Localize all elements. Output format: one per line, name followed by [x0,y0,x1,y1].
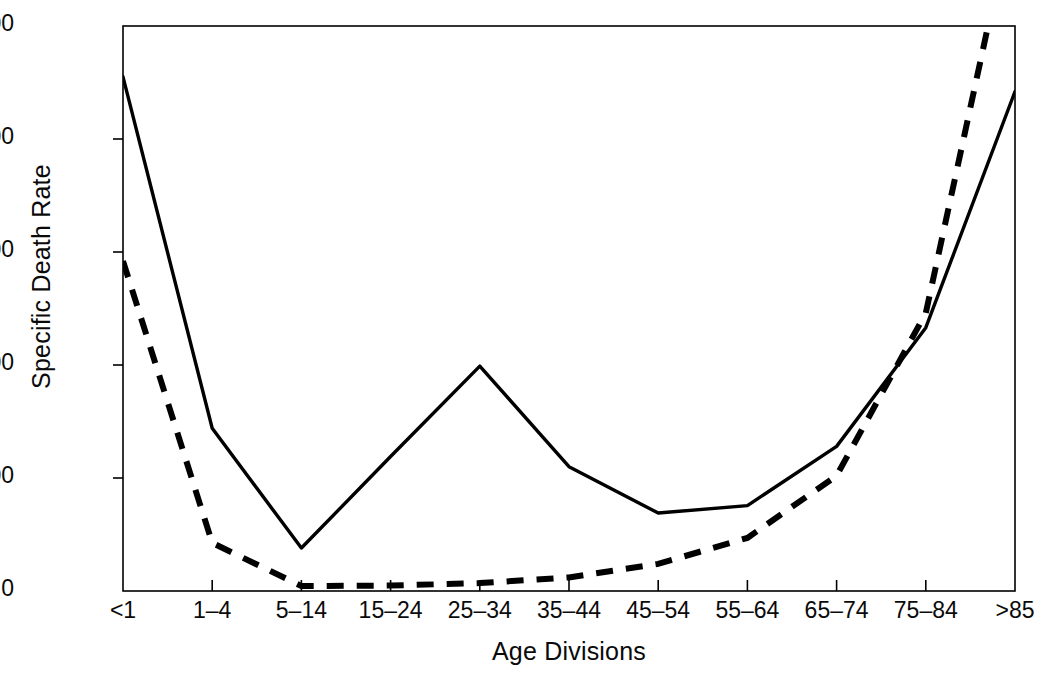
plot-area [0,0,1043,691]
y-tick-marks [113,139,123,478]
plot-frame [123,26,1015,591]
series-line-solid [123,77,1015,548]
series-line-dashed [123,0,1015,586]
x-tick-marks [212,580,926,591]
figure-panel: Specific Death Rate 05001000150020002500… [0,0,1043,691]
figure-caption [36,678,1016,691]
